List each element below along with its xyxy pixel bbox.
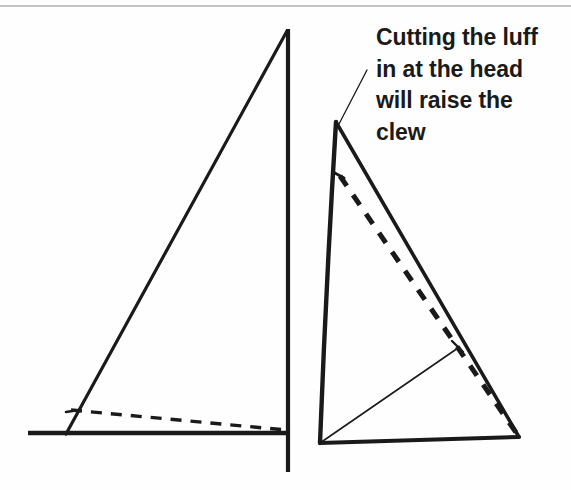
callout-text-line-2: in at the head (376, 54, 566, 86)
sail-diagram-figure: Cutting the luff in at the head will rai… (0, 0, 571, 490)
callout-text-line-1: Cutting the luff (376, 22, 566, 54)
callout-text-line-3: will raise the (376, 85, 566, 117)
callout-text: Cutting the luff in at the head will rai… (376, 22, 566, 148)
callout-text-line-4: clew (376, 117, 566, 149)
